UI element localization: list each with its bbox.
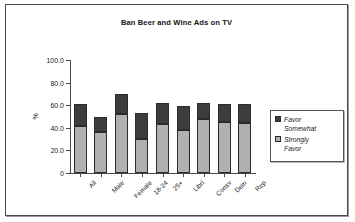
legend-item-label: StronglyFavor [284,135,309,153]
x-axis-tick [224,173,225,177]
y-axis-tick-label: 40.0 [50,124,64,131]
x-axis-tick [121,173,122,177]
y-axis-tick [66,128,70,129]
legend-label-line-2: Somewhat [284,124,316,133]
legend-item[interactable]: StronglyFavor [275,135,340,153]
chart-title: Ban Beer and Wine Ads on TV [6,18,347,27]
light-swatch-icon [275,136,281,142]
bar-segment-strongly-favor[interactable] [74,126,87,173]
bar-segment-strongly-favor[interactable] [218,122,231,173]
bar-segment-strongly-favor[interactable] [197,119,210,173]
legend-label-line-1: Favor [284,115,316,124]
y-axis-tick [66,150,70,151]
bar-segment-strongly-favor[interactable] [238,123,251,173]
y-axis-tick-label: 20.0 [50,147,64,154]
x-axis-tick-label: Dem [233,179,248,194]
x-axis-tick-label: All [87,179,97,189]
x-axis-tick [163,173,164,177]
x-axis-tick-label: 25+ [171,179,184,192]
x-axis-tick-label: Rep [253,179,267,193]
x-axis-tick-label: Consv [214,179,232,197]
bar-segment-strongly-favor[interactable] [94,132,107,173]
x-axis-tick-label: 18-24 [152,179,169,196]
dark-swatch-icon [275,116,281,122]
x-axis-tick-label: Female [133,179,154,200]
bar-segment-strongly-favor[interactable] [135,139,148,173]
y-axis-label: % [32,113,39,119]
x-axis-tick [142,173,143,177]
x-axis-tick-label: Librl [192,179,206,193]
y-axis-tick [66,60,70,61]
y-axis-tick [66,83,70,84]
y-axis-tick-label: 100.0 [46,57,64,64]
bar-segment-favor-somewhat[interactable] [197,103,210,119]
bar-segment-favor-somewhat[interactable] [218,104,231,122]
x-axis-tick [80,173,81,177]
bar-segment-strongly-favor[interactable] [177,130,190,173]
chart-frame: Ban Beer and Wine Ads on TV % 020.040.06… [5,4,348,216]
y-axis-tick-group: 100.0 [70,60,71,61]
x-axis-tick [245,173,246,177]
legend-item[interactable]: FavorSomewhat [275,115,340,133]
plot-area: 020.040.060.080.0100.0 [70,60,255,173]
x-axis-tick [101,173,102,177]
y-axis-tick-group: 80.0 [70,83,71,84]
chart-legend: FavorSomewhatStronglyFavor [270,110,344,162]
y-axis-tick [66,105,70,106]
x-axis-tick [204,173,205,177]
bar-segment-strongly-favor[interactable] [156,124,169,173]
x-axis-tick [183,173,184,177]
bar-segment-favor-somewhat[interactable] [115,94,128,114]
y-axis-tick-group: 20.0 [70,150,71,151]
bar-segment-favor-somewhat[interactable] [94,117,107,133]
bar-segment-favor-somewhat[interactable] [177,106,190,130]
bar-segment-strongly-favor[interactable] [115,114,128,173]
y-axis-tick [66,173,70,174]
bar-segment-favor-somewhat[interactable] [238,104,251,123]
y-axis-tick-group: 0 [70,173,71,174]
legend-label-line-1: Strongly [284,135,309,144]
bar-segment-favor-somewhat[interactable] [156,103,169,124]
y-axis-tick-label: 60.0 [50,102,64,109]
legend-label-line-2: Favor [284,144,309,153]
y-axis-tick-group: 40.0 [70,128,71,129]
x-axis-tick-label: Male [110,179,125,194]
bar-segment-favor-somewhat[interactable] [135,113,148,139]
legend-item-label: FavorSomewhat [284,115,316,133]
y-axis-tick-label: 0 [60,170,64,177]
bar-segment-favor-somewhat[interactable] [74,104,87,125]
y-axis-tick-label: 80.0 [50,79,64,86]
y-axis-tick-group: 60.0 [70,105,71,106]
